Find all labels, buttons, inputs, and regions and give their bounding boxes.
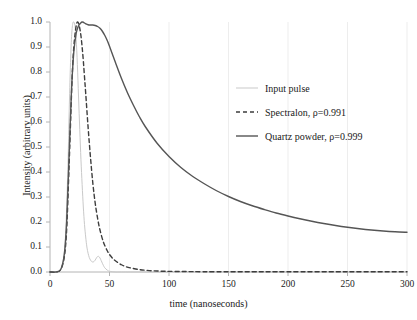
legend-item[interactable]: Input pulse — [236, 76, 414, 100]
y-tick-label: 1.0 — [16, 17, 42, 27]
legend-line-swatch — [236, 107, 258, 117]
legend-line-swatch — [236, 83, 258, 93]
plot-canvas — [0, 0, 417, 320]
x-tick-label: 100 — [149, 280, 189, 290]
chart-legend: Input pulseSpectralon, ρ=0.991Quartz pow… — [236, 76, 414, 148]
x-axis-title: time (nanoseconds) — [0, 298, 417, 309]
x-tick-label: 150 — [209, 280, 249, 290]
x-tick-label: 300 — [387, 280, 417, 290]
y-tick-label: 0.1 — [16, 242, 42, 252]
legend-line-swatch — [236, 131, 258, 141]
legend-label: Spectralon, ρ=0.991 — [265, 107, 346, 118]
legend-label: Input pulse — [265, 83, 310, 94]
legend-item[interactable]: Spectralon, ρ=0.991 — [236, 100, 414, 124]
y-tick-label: 0.9 — [16, 42, 42, 52]
x-tick-label: 200 — [268, 280, 308, 290]
legend-item[interactable]: Quartz powder, ρ=0.999 — [236, 124, 414, 148]
x-tick-label: 50 — [90, 280, 130, 290]
x-tick-label: 0 — [30, 280, 70, 290]
legend-label: Quartz powder, ρ=0.999 — [265, 131, 362, 142]
tick-marks-group — [46, 22, 407, 276]
x-tick-label: 250 — [328, 280, 368, 290]
y-axis-title: Intensity (arbitrary units) — [21, 76, 32, 216]
y-tick-label: 0.0 — [16, 267, 42, 277]
y-tick-label: 0.2 — [16, 217, 42, 227]
chart-figure: 0.00.10.20.30.40.50.60.70.80.91.0 050100… — [0, 0, 417, 320]
